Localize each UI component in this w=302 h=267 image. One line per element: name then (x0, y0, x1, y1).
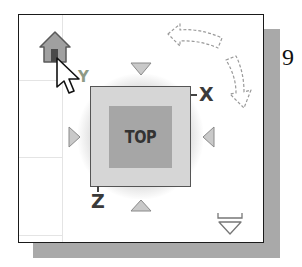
rotate-clockwise-arrow-icon[interactable] (224, 54, 258, 110)
triangle-left-arrow-icon[interactable] (202, 126, 215, 148)
rotate-counterclockwise-arrow-icon[interactable] (166, 22, 224, 50)
grid-line-horizontal (19, 235, 62, 236)
axis-label-z: Z (91, 192, 105, 211)
x-axis-tick (191, 94, 197, 96)
triangle-down-arrow-icon[interactable] (130, 62, 152, 76)
viewcube-menu-dropdown-icon[interactable] (216, 212, 244, 236)
triangle-right-arrow-icon[interactable] (68, 126, 81, 148)
triangle-up-arrow-icon[interactable] (130, 199, 152, 212)
viewcube-face-top[interactable]: TOP (109, 106, 172, 168)
mouse-pointer-icon (56, 57, 86, 97)
grid-line-horizontal (19, 157, 62, 158)
panel-shadow-bottom (33, 243, 280, 258)
axis-label-x: X (199, 85, 214, 104)
page-number: 9 (282, 44, 294, 71)
viewcube-face-label: TOP (125, 127, 156, 147)
panel-shadow-right (264, 29, 280, 258)
